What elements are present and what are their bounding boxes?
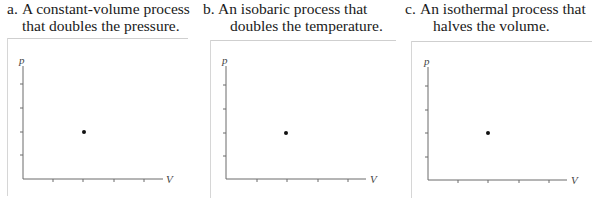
- panel-a: a. A constant-volume process that double…: [0, 0, 194, 200]
- panel-b-v-axis-label: V: [370, 173, 378, 185]
- panel-b-pv-diagram: p V: [203, 0, 397, 200]
- panel-c-pv-diagram: p V: [405, 0, 594, 200]
- panel-c: c. An isothermal process that halves the…: [405, 0, 594, 200]
- panel-b-initial-state-dot: [284, 131, 288, 135]
- panel-b: b. An isobaric process that doubles the …: [203, 0, 397, 200]
- panel-a-v-axis-label: V: [166, 173, 174, 185]
- panel-c-v-axis-label: V: [571, 174, 579, 186]
- panel-a-p-axis-label: p: [18, 54, 25, 66]
- panel-c-p-axis-label: p: [423, 55, 430, 67]
- panel-a-initial-state-dot: [82, 130, 86, 134]
- panel-c-initial-state-dot: [486, 131, 490, 135]
- panel-a-pv-diagram: p V: [0, 0, 194, 200]
- panel-b-p-axis-label: p: [221, 54, 228, 66]
